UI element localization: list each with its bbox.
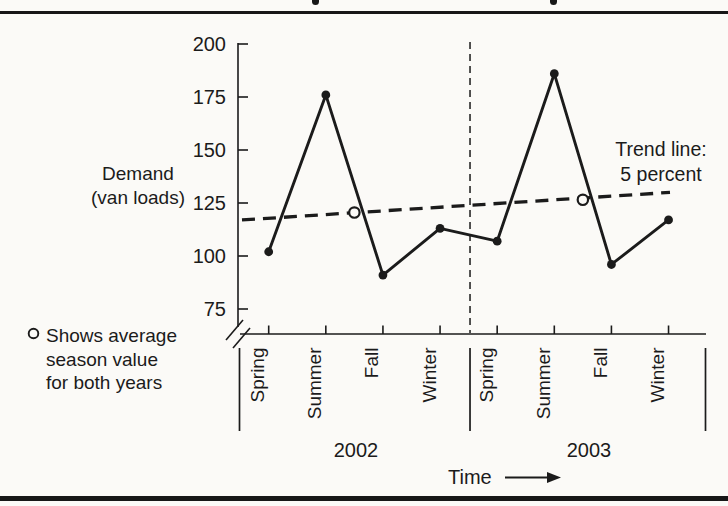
average-point-open-circle [578,195,588,205]
y-tick-label-125: 125 [168,192,226,214]
axis-break-slash [233,328,250,348]
trend-line [242,192,670,220]
legend-line1: Shows average [46,324,177,348]
season-label-summer-2003: Summer [532,348,554,449]
y-tick-label-100: 100 [168,245,226,267]
season-label-winter-2003: Winter [647,348,669,449]
legend: Shows average season value for both year… [46,324,177,395]
figure-page: Demand (van loads) Shows average season … [0,0,728,506]
demand-point [321,90,330,99]
y-axis-title-line1: Demand [60,162,216,186]
demand-point [379,271,388,280]
demand-point [607,260,616,269]
y-tick-label-175: 175 [168,86,226,108]
season-label-spring-2002: Spring [247,348,269,449]
legend-line2: season value [46,348,177,372]
trend-annotation-line2: 5 percent [586,162,728,187]
demand-point [493,237,502,246]
legend-open-circle-icon [29,329,39,339]
y-tick-label-75: 75 [168,298,226,320]
demand-point [264,247,273,256]
y-tick-label-200: 200 [168,33,226,55]
x-axis-title: Time [448,466,492,489]
legend-line3: for both years [46,371,177,395]
average-point-open-circle [349,207,359,217]
season-label-spring-2003: Spring [475,348,497,449]
y-tick-label-150: 150 [168,139,226,161]
season-label-winter-2002: Winter [418,348,440,449]
trend-annotation-line1: Trend line: [586,137,728,162]
trend-annotation: Trend line: 5 percent [586,137,728,187]
demand-point [550,69,559,78]
time-arrow-head-icon [547,472,561,483]
season-label-summer-2002: Summer [304,348,326,449]
axis-break-slash [226,320,243,340]
demand-point [436,224,445,233]
season-label-fall-2002: Fall [361,348,383,449]
demand-point [664,216,673,225]
season-label-fall-2003: Fall [589,348,611,449]
